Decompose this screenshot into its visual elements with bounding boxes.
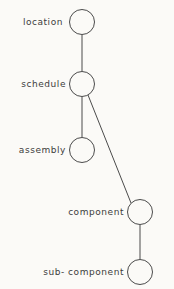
node-label-schedule: schedule <box>21 79 66 89</box>
node-label-sub-component: sub- component <box>43 267 124 277</box>
node-circle-assembly[interactable] <box>70 138 95 163</box>
diagram-canvas: locationscheduleassemblycomponentsub- co… <box>0 0 174 289</box>
node-circle-component[interactable] <box>128 200 153 225</box>
node-label-component: component <box>68 207 124 217</box>
node-label-assembly: assembly <box>19 145 66 155</box>
node-label-location: location <box>23 17 63 27</box>
node-circle-schedule[interactable] <box>70 72 95 97</box>
node-circle-sub-component[interactable] <box>128 260 153 285</box>
node-circle-location[interactable] <box>70 10 95 35</box>
